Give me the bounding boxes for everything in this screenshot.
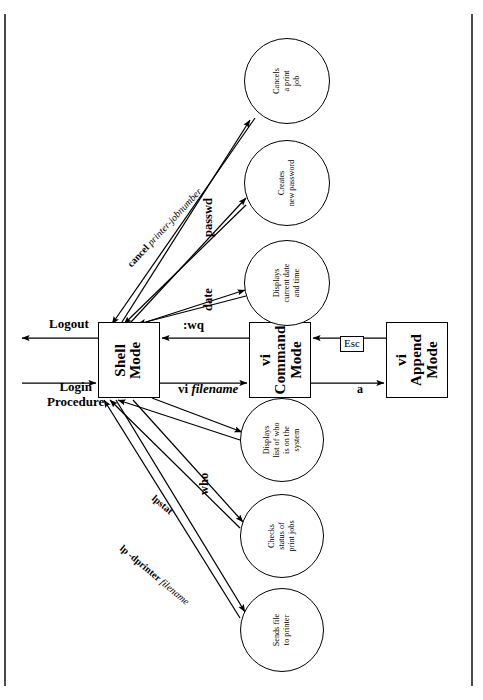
node-displays-who[interactable]: Displays list of who is on the system (240, 398, 324, 482)
edge-label-a: a (357, 383, 363, 396)
node-vi-command-mode[interactable]: vi Command Mode (249, 322, 311, 398)
node-cancels-print-job[interactable]: Cancels a print job (244, 38, 330, 124)
edge-label-esc-key: Esc (340, 336, 364, 352)
node-checks-print-jobs[interactable]: Checks status of print jobs (240, 494, 324, 578)
edge-label-who: who (197, 473, 212, 495)
edge-label-login-procedure: Login Procedure (47, 380, 104, 409)
node-shell-mode[interactable]: Shell Mode (98, 322, 160, 398)
node-displays-date-time[interactable]: Displays current date and time (244, 240, 330, 326)
node-creates-new-password-label: Creates new password (277, 160, 297, 207)
node-vi-append-mode-label: vi Append Mode (394, 334, 440, 386)
node-sends-file-to-printer[interactable]: Sends file to printer (240, 588, 324, 672)
edge-cancel-out (122, 120, 250, 322)
node-displays-who-label: Displays list of who is on the system (262, 422, 302, 457)
node-shell-mode-label: Shell Mode (114, 341, 145, 378)
edge-label-logout: Logout (49, 317, 89, 332)
edge-label-vi-filename-arg: filename (191, 381, 238, 396)
edge-label-vi-filename: vi filename (178, 382, 238, 397)
node-checks-print-jobs-label: Checks status of print jobs (267, 520, 297, 551)
node-vi-command-mode-label: vi Command Mode (257, 326, 303, 395)
node-vi-append-mode[interactable]: vi Append Mode (386, 322, 448, 398)
edge-label-wq: :wq (183, 318, 204, 333)
diagram-page: Shell Mode vi Command Mode vi Append Mod… (0, 0, 483, 700)
node-cancels-print-job-label: Cancels a print job (272, 68, 302, 94)
node-creates-new-password[interactable]: Creates new password (244, 140, 330, 226)
edge-label-passwd: passwd (201, 198, 216, 237)
node-sends-file-to-printer-label: Sends file to printer (272, 614, 292, 647)
edge-label-date: date (201, 288, 216, 311)
edge-label-vi-filename-cmd: vi (178, 381, 191, 396)
edge-lp-out (116, 400, 245, 612)
node-displays-date-time-label: Displays current date and time (272, 264, 302, 303)
edge-lpstat-out (133, 400, 243, 522)
